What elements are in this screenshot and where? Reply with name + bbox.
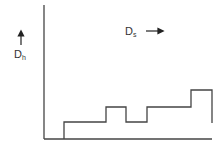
dh-main: D	[14, 48, 22, 60]
ds-main: D	[125, 25, 133, 37]
horizontal-axis-label: Ds	[125, 26, 136, 38]
dh-sub: h	[22, 54, 26, 61]
diagram-canvas	[0, 0, 222, 150]
vertical-axis-label: Dh	[14, 49, 26, 61]
step-profile-line	[64, 90, 212, 139]
ds-sub: s	[133, 31, 137, 38]
